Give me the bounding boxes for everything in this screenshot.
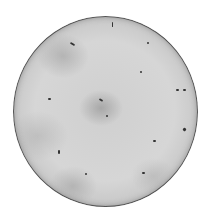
specimen-spot xyxy=(183,89,186,91)
specimen-spot xyxy=(147,42,149,44)
specimen-spot xyxy=(142,172,145,174)
specimen-spot xyxy=(48,98,51,100)
specimen-spot xyxy=(140,71,142,73)
specimen-spot xyxy=(176,89,179,91)
specimen-spot xyxy=(153,140,156,142)
specimen-spot xyxy=(58,150,60,154)
specimen-plate xyxy=(13,16,198,207)
specimen-spot xyxy=(85,173,87,175)
specimen-spot xyxy=(106,115,108,117)
specimen-spot xyxy=(112,22,113,27)
